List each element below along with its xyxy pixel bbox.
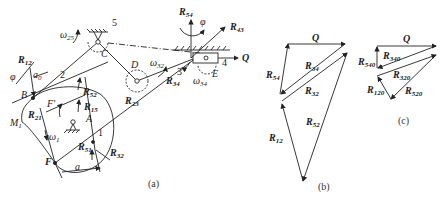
label-point-b: B [21,89,27,100]
label-q-a: Q [242,52,249,63]
label-point-fp: F' [46,98,56,109]
label-c-r120: R120 [366,84,385,97]
label-r23: R23 [124,95,139,108]
caption-b: (b) [318,181,330,193]
label-phi-left: φ [10,71,16,82]
panel-a-labels: R12 φ a0 2 B F' M1 R21 R52 R15 A ω1 1 R5… [9,6,249,190]
label-m1: M1 [9,117,22,130]
panel-c-labels: Q R340 R540 R320 R120 R520 (c) [357,33,423,127]
label-dim-a: a [75,161,80,172]
label-r21: R21 [27,109,42,122]
label-omega32: ω32 [150,57,165,70]
diagram-canvas: R12 φ a0 2 B F' M1 R21 R52 R15 A ω1 1 R5… [0,0,443,202]
label-b-r12: R12 [268,132,283,145]
label-a0: a0 [33,69,42,82]
label-c-r520: R520 [404,85,423,98]
label-r51: R51 [77,141,92,154]
label-c-r540: R540 [357,56,376,69]
label-b-q: Q [312,32,319,43]
label-point-c: C [101,48,108,59]
caption-c: (c) [398,115,409,127]
caption-a: (a) [148,178,159,190]
label-point-f: F [44,156,52,167]
label-b-r32: R32 [304,85,319,98]
label-r32: R32 [109,147,124,160]
label-link-1: 1 [98,127,103,138]
label-b-r34: R34 [304,60,319,73]
label-b-r52: R52 [305,116,320,129]
label-omega25: ω25 [60,29,75,42]
label-r52: R52 [82,86,97,99]
label-phi-top: φ [200,16,206,27]
label-c-q: Q [403,33,410,44]
label-omega1: ω1 [49,131,60,144]
label-point-e: E [211,68,218,79]
label-point-d: D [130,59,139,70]
label-link-2: 2 [60,69,65,80]
panel-b-labels: Q R34 R54 R32 R52 R12 (b) [265,32,330,193]
label-omega34: ω34 [193,75,208,88]
label-r43: R43 [229,21,244,34]
label-r54: R54 [178,6,193,19]
label-point-a: A [85,113,93,124]
label-link-5: 5 [112,17,117,28]
label-c-r340: R340 [382,50,401,63]
label-link-4: 4 [222,57,227,68]
label-link-3: 3 [177,66,182,77]
label-b-r54: R54 [265,69,280,82]
label-r12: R12 [17,54,32,67]
label-c-r320: R320 [392,69,411,82]
